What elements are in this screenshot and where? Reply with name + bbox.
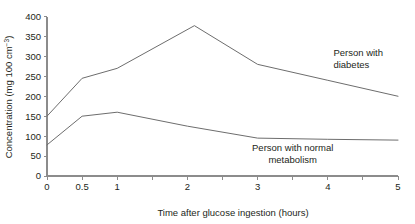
y-tick-label: 300	[25, 51, 41, 62]
data-series-group	[47, 26, 398, 145]
y-axis-title: Concentration (mg 100 cm−3)	[3, 36, 14, 159]
annotation-line-1: Person with	[333, 47, 383, 58]
y-tick-label: 0	[36, 170, 41, 181]
y-tick-label: 400	[25, 11, 41, 22]
glucose-tolerance-chart: 050100150200250300350400 00.512345 Perso…	[0, 0, 415, 224]
y-tick-label: 250	[25, 71, 41, 82]
y-tick-label: 150	[25, 111, 41, 122]
x-axis-title: Time after glucose ingestion (hours)	[157, 207, 308, 218]
x-tick-label: 5	[395, 181, 400, 192]
y-tick-label: 50	[30, 150, 41, 161]
x-tick-label: 2	[185, 181, 190, 192]
y-axis-title-close: )	[3, 36, 14, 39]
annotation-line-2: metabolism	[268, 154, 317, 165]
y-tick-label: 350	[25, 31, 41, 42]
annotation-normal: Person with normalmetabolism	[252, 142, 333, 165]
x-tick-label: 0.5	[75, 181, 88, 192]
series-annotations: Person withdiabetesPerson with normalmet…	[252, 47, 383, 164]
annotation-diabetes: Person withdiabetes	[333, 47, 383, 70]
x-tick-label: 4	[325, 181, 330, 192]
x-tick-group: 00.512345	[44, 176, 400, 192]
chart-svg: 050100150200250300350400 00.512345 Perso…	[0, 0, 415, 224]
y-tick-group: 050100150200250300350400	[25, 11, 47, 182]
y-tick-label: 100	[25, 131, 41, 142]
y-axis-title-main: Concentration (mg 100 cm	[3, 46, 14, 158]
y-tick-label: 200	[25, 91, 41, 102]
x-tick-label: 1	[115, 181, 120, 192]
x-axis: 00.512345	[44, 176, 400, 192]
series-line-diabetes	[47, 26, 398, 117]
x-tick-label: 3	[255, 181, 260, 192]
annotation-line-2: diabetes	[333, 59, 369, 70]
annotation-line-1: Person with normal	[252, 142, 333, 153]
y-axis: 050100150200250300350400	[25, 11, 47, 182]
x-tick-label: 0	[44, 181, 49, 192]
series-line-normal	[47, 112, 398, 145]
